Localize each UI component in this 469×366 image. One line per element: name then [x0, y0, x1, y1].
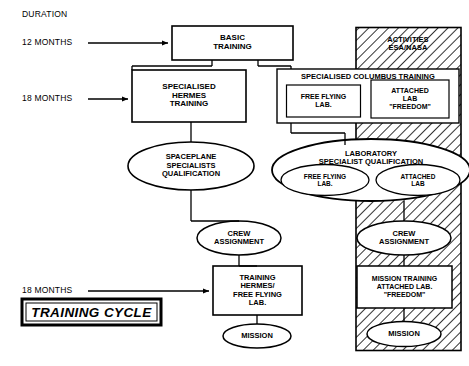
training-cycle-diagram: DURATION 12 MONTHS 18 MONTHS 18 MONTHS A…	[0, 0, 469, 366]
duration-12-months: 12 MONTHS	[22, 37, 72, 47]
basic-training-label: BASIC TRAINING	[172, 26, 293, 60]
training-hermes-free-flying-lab-label: TRAINING HERMES/ FREE FLYING LAB.	[213, 266, 302, 315]
lab-free-flying-label: FREE FLYING LAB.	[283, 168, 367, 192]
training-cycle-title: TRAINING CYCLE	[26, 303, 157, 321]
duration-18-months-hermes: 18 MONTHS	[22, 93, 72, 103]
spaceplane-specialists-qualification-label: SPACEPLANE SPECIALISTS QUALIFICATION	[128, 142, 254, 190]
crew-assignment-right-label: CREW ASSIGNMENT	[357, 224, 451, 252]
crew-assignment-left-label: CREW ASSIGNMENT	[197, 224, 281, 252]
duration-header: DURATION	[22, 9, 67, 19]
columbus-free-flying-lab-label: FREE FLYING LAB.	[287, 85, 361, 117]
columbus-attached-lab-label: ATTACHED LAB "FREEDOM"	[371, 80, 449, 118]
lab-attached-label: ATTACHED LAB	[378, 168, 458, 192]
mission-training-attached-label: MISSION TRAINING ATTACHED LAB. "FREEDOM"	[357, 266, 452, 308]
duration-18-months-training: 18 MONTHS	[22, 285, 72, 295]
activities-esa-nasa-label: ACTIVITIES ESA/NASA	[358, 31, 458, 57]
mission-right-label: MISSION	[367, 322, 441, 346]
specialised-hermes-training-label: SPECIALISED HERMES TRAINING	[132, 70, 246, 122]
mission-left-label: MISSION	[223, 324, 291, 348]
laboratory-specialist-qualification-label: LABORATORY SPECIALIST QUALIFICATION	[279, 146, 463, 170]
